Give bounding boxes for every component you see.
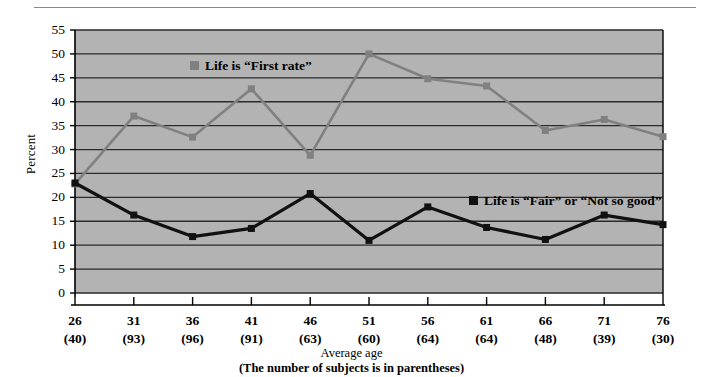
- x-tick-label: 71(39): [572, 312, 636, 348]
- x-tick-age: 66: [513, 312, 577, 330]
- x-tick-age: 61: [455, 312, 519, 330]
- y-tick-label: 25: [31, 166, 65, 180]
- legend-swatch-first-rate: [190, 61, 199, 70]
- y-tick-label: 0: [31, 286, 65, 300]
- x-tick-age: 26: [43, 312, 107, 330]
- x-tick-label: 51(60): [337, 312, 401, 348]
- data-point-marker: [189, 134, 196, 141]
- data-point-marker: [130, 113, 137, 120]
- x-tick-label: 41(91): [219, 312, 283, 348]
- y-tick-label: 40: [31, 95, 65, 109]
- data-point-marker: [248, 225, 255, 232]
- data-point-marker: [307, 152, 314, 159]
- legend-swatch-fair: [469, 196, 478, 205]
- x-tick-label: 36(96): [161, 312, 225, 348]
- legend-label-first-rate: Life is “First rate”: [205, 58, 312, 73]
- data-point-marker: [660, 221, 667, 228]
- x-tick-age: 76: [631, 312, 695, 330]
- data-point-marker: [424, 75, 431, 82]
- x-tick-age: 56: [396, 312, 460, 330]
- y-tick-label: 55: [31, 23, 65, 37]
- x-tick-label: 31(93): [102, 312, 166, 348]
- y-tick-label: 50: [31, 47, 65, 61]
- x-tick-age: 41: [219, 312, 283, 330]
- x-axis-title: Average age: [0, 345, 703, 361]
- x-tick-label: 56(64): [396, 312, 460, 348]
- y-tick-label: 45: [31, 71, 65, 85]
- data-point-marker: [424, 203, 431, 210]
- legend-label-fair: Life is “Fair” or “Not so good”: [484, 193, 662, 208]
- y-tick-label: 10: [31, 238, 65, 252]
- data-point-marker: [601, 212, 608, 219]
- data-point-marker: [542, 236, 549, 243]
- chart-figure: Percent 5550454035302520151050 26(40)31(…: [0, 0, 703, 377]
- x-tick-age: 46: [278, 312, 342, 330]
- data-point-marker: [601, 116, 608, 123]
- data-point-marker: [72, 180, 79, 187]
- x-tick-label: 76(30): [631, 312, 695, 348]
- y-tick-label: 35: [31, 119, 65, 133]
- x-tick-age: 71: [572, 312, 636, 330]
- x-tick-label: 66(48): [513, 312, 577, 348]
- data-point-marker: [660, 133, 667, 140]
- data-point-marker: [366, 237, 373, 244]
- y-tick-label: 5: [31, 262, 65, 276]
- y-tick-label: 15: [31, 214, 65, 228]
- data-point-marker: [130, 212, 137, 219]
- data-point-marker: [189, 233, 196, 240]
- x-tick-label: 61(64): [455, 312, 519, 348]
- x-tick-label: 46(63): [278, 312, 342, 348]
- y-tick-label: 20: [31, 190, 65, 204]
- data-point-marker: [483, 224, 490, 231]
- data-point-marker: [366, 50, 373, 57]
- x-tick-age: 51: [337, 312, 401, 330]
- y-tick-label: 30: [31, 143, 65, 157]
- x-tick-age: 31: [102, 312, 166, 330]
- data-point-marker: [307, 190, 314, 197]
- legend-item-first-rate: Life is “First rate”: [190, 58, 312, 74]
- legend-item-fair: Life is “Fair” or “Not so good”: [469, 193, 662, 209]
- x-axis-note: (The number of subjects is in parenthese…: [0, 360, 703, 376]
- plot-background: [75, 30, 663, 293]
- data-point-marker: [248, 85, 255, 92]
- data-point-marker: [542, 127, 549, 134]
- x-tick-age: 36: [161, 312, 225, 330]
- data-point-marker: [483, 82, 490, 89]
- x-tick-label: 26(40): [43, 312, 107, 348]
